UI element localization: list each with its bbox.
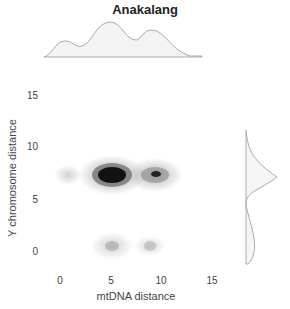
joint-plot: 15 10 5 0 0 5 10 15 mtDNA distance Y chr…	[0, 0, 290, 309]
x-axis-label: mtDNA distance	[97, 290, 176, 302]
svg-text:5: 5	[32, 194, 38, 205]
svg-text:5: 5	[108, 275, 114, 286]
y-axis-label: Y chromosome distance	[6, 119, 18, 237]
kde-contours	[54, 155, 183, 260]
svg-text:15: 15	[206, 275, 218, 286]
svg-text:0: 0	[57, 275, 63, 286]
marginal-y-density	[246, 130, 277, 264]
marginal-x-density	[44, 22, 202, 57]
svg-text:10: 10	[155, 275, 167, 286]
svg-text:15: 15	[27, 90, 39, 101]
svg-text:0: 0	[32, 246, 38, 257]
svg-text:10: 10	[27, 141, 39, 152]
